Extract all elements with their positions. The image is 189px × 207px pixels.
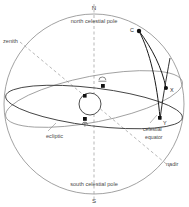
label-point-y: Y	[163, 120, 167, 126]
vernal-equinox-marker	[83, 117, 87, 121]
celestial-equator-leader	[150, 115, 157, 123]
point-x-marker	[164, 86, 168, 90]
label-celestial-equator-line1: celestial	[143, 126, 162, 132]
label-north-celestial-pole: north celestial pole	[71, 18, 118, 24]
earth-sphere	[79, 93, 101, 115]
autumnal-equinox-marker	[101, 84, 105, 88]
label-point-x: X	[170, 87, 174, 93]
label-celestial-equator-line2: equator	[145, 134, 163, 140]
label-north-cardinal: N	[92, 4, 96, 11]
label-south-cardinal: S	[92, 197, 96, 204]
label-point-c: C	[130, 27, 134, 33]
celestial-sphere-figure: N north celestial pole south celestial p…	[0, 0, 189, 207]
libra-symbol-icon	[98, 77, 106, 81]
point-c-marker	[137, 29, 141, 33]
point-y-marker	[158, 116, 162, 120]
label-zenith: zenith	[3, 38, 18, 44]
star-arc-c-to-y	[139, 31, 160, 118]
label-ecliptic: ecliptic	[46, 133, 63, 139]
label-nadir: nadir	[166, 161, 179, 167]
earth-pole-marker	[83, 94, 87, 98]
label-south-celestial-pole: south celestial pole	[70, 181, 118, 187]
